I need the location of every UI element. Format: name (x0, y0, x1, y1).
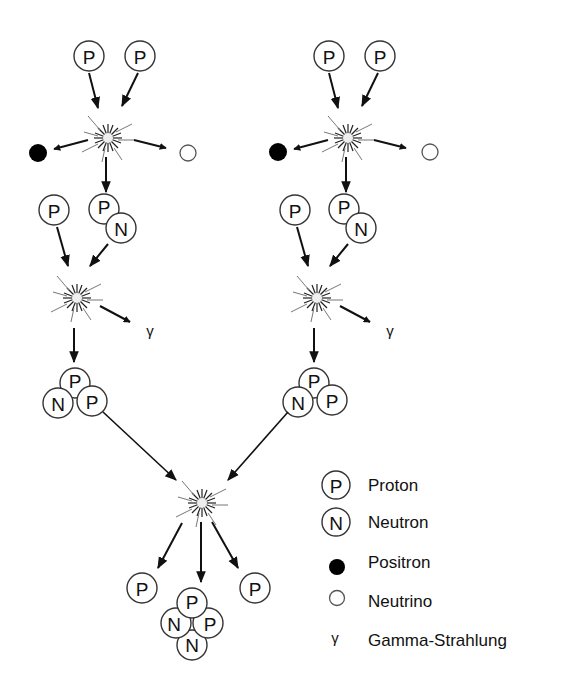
svg-text:P: P (326, 391, 339, 412)
arrow (228, 412, 288, 480)
neutrino-particle (422, 144, 438, 160)
helium4-cluster: P N P N (161, 588, 223, 660)
positron-particle (29, 144, 47, 162)
arrow (158, 523, 182, 568)
arrow (374, 140, 406, 148)
gamma-ray: γ (386, 322, 394, 339)
svg-text:N: N (51, 394, 65, 415)
svg-text:Positron: Positron (368, 553, 430, 572)
neutrino-particle (180, 145, 196, 161)
proton-particle: P (39, 195, 69, 225)
arrow (362, 73, 378, 106)
gamma-icon: γ (331, 629, 339, 646)
legend-item-positron: Positron (329, 553, 430, 576)
arrow (329, 73, 338, 108)
arrow (122, 73, 138, 106)
proton-particle: P (125, 41, 155, 71)
svg-text:N: N (185, 635, 199, 656)
arrow (57, 227, 68, 266)
arrow (134, 140, 166, 148)
svg-text:P: P (204, 614, 217, 635)
positron-particle (269, 143, 287, 161)
svg-text:Gamma-Strahlung: Gamma-Strahlung (368, 631, 507, 650)
arrow (89, 73, 98, 108)
svg-text:P: P (69, 371, 82, 392)
proton-particle: P (314, 41, 344, 71)
svg-text:N: N (354, 219, 368, 240)
arrow (297, 227, 308, 266)
legend-item-gamma: γ Gamma-Strahlung (331, 629, 507, 650)
svg-text:N: N (167, 614, 181, 635)
gamma-ray: γ (146, 322, 154, 339)
proton-particle: P (280, 195, 310, 225)
arrow (330, 244, 348, 266)
positron-icon (329, 559, 345, 575)
svg-text:P: P (98, 197, 111, 218)
svg-text:P: P (86, 392, 99, 413)
deuteron-cluster: P N (89, 194, 136, 243)
arrow (103, 412, 176, 480)
legend-item-proton: P Proton (322, 471, 418, 499)
legend-item-neutron: N Neutron (322, 508, 428, 536)
proton-particle: P (240, 573, 270, 603)
arrow (212, 522, 238, 568)
pp-chain-diagram: P P P P N γ (0, 0, 571, 698)
arrow (100, 306, 130, 322)
svg-text:P: P (308, 371, 321, 392)
svg-text:P: P (249, 579, 262, 600)
svg-text:P: P (330, 476, 343, 497)
svg-text:N: N (329, 513, 343, 534)
fusion-burst-icon (291, 276, 343, 322)
deuteron-cluster: P N (329, 194, 376, 243)
svg-text:N: N (291, 393, 305, 414)
legend: P Proton N Neutron Positron Neutrino γ G… (322, 471, 507, 650)
svg-text:P: P (374, 47, 387, 68)
arrow (340, 306, 370, 322)
svg-text:P: P (83, 47, 96, 68)
fusion-burst-icon (51, 276, 103, 322)
svg-text:P: P (186, 592, 199, 613)
helium3-cluster: P N P (43, 368, 107, 418)
arrow (90, 244, 108, 266)
proton-particle: P (74, 41, 104, 71)
fusion-burst-icon (82, 116, 134, 162)
svg-text:P: P (323, 47, 336, 68)
svg-text:Neutrino: Neutrino (368, 592, 432, 611)
helium3-cluster: P N P (283, 368, 347, 417)
proton-particle: P (127, 573, 157, 603)
left-branch: P P P P N γ (29, 41, 196, 480)
svg-text:Neutron: Neutron (368, 513, 428, 532)
fusion-burst-icon (176, 481, 228, 527)
svg-text:N: N (114, 219, 128, 240)
svg-text:P: P (48, 201, 61, 222)
svg-text:P: P (134, 47, 147, 68)
neutrino-icon (330, 591, 345, 606)
final-fusion: P P P N P N (127, 481, 270, 660)
proton-particle: P (365, 41, 395, 71)
right-branch: P P P P N γ P (269, 41, 438, 417)
fusion-burst-icon (322, 116, 374, 162)
svg-text:P: P (289, 201, 302, 222)
svg-text:P: P (338, 197, 351, 218)
legend-item-neutrino: Neutrino (330, 591, 433, 611)
svg-text:P: P (136, 579, 149, 600)
arrow (54, 140, 88, 149)
svg-text:Proton: Proton (368, 476, 418, 495)
arrow (294, 140, 328, 149)
